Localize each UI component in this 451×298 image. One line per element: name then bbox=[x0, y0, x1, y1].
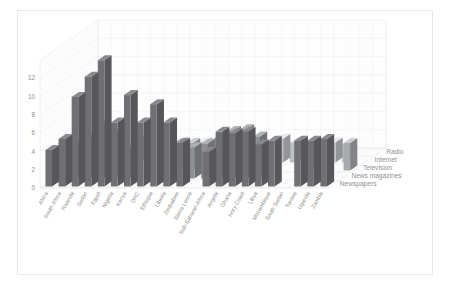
bar-front-face bbox=[320, 139, 327, 187]
chart-canvas: 024681012AfricaSouth AfricaRwandaSudanEg… bbox=[0, 0, 451, 298]
bar bbox=[85, 72, 99, 187]
bar-side-face bbox=[283, 134, 290, 163]
bar-side-face bbox=[65, 134, 72, 187]
bar-front-face bbox=[111, 122, 118, 186]
bar-side-face bbox=[275, 136, 282, 187]
bar bbox=[242, 127, 256, 187]
bar-front-face bbox=[176, 143, 183, 187]
y-axis-tick-label: 6 bbox=[31, 129, 35, 136]
bar bbox=[344, 138, 358, 170]
bar-side-face bbox=[195, 142, 202, 178]
series-axis-label: Radio bbox=[386, 148, 404, 155]
x-axis-category-label: Nigeria bbox=[101, 190, 115, 209]
bar bbox=[72, 92, 86, 187]
y-axis-tick-label: 2 bbox=[31, 166, 35, 173]
bar-side-face bbox=[170, 118, 177, 187]
bar-side-face bbox=[209, 147, 216, 187]
x-axis-category-label: Rwanda bbox=[60, 190, 75, 211]
bar bbox=[216, 127, 230, 187]
y-axis-tick-label: 12 bbox=[28, 74, 36, 81]
bar-front-face bbox=[203, 152, 210, 187]
bar bbox=[176, 138, 190, 187]
bar-front-face bbox=[229, 133, 236, 186]
bar bbox=[124, 90, 138, 186]
series-axis-label: News magazines bbox=[351, 172, 402, 180]
x-axis-category-label: Ghana bbox=[219, 190, 233, 208]
series-axis-label: Newspapers bbox=[340, 180, 377, 188]
bar-front-face bbox=[59, 139, 66, 187]
bar-front-face bbox=[45, 150, 52, 187]
bar-side-face bbox=[78, 92, 85, 187]
bar bbox=[320, 134, 334, 187]
bar-front-face bbox=[216, 132, 223, 187]
bar bbox=[98, 55, 112, 186]
x-axis-category-label: DRC bbox=[130, 191, 141, 204]
y-axis-tick-label: 8 bbox=[31, 111, 35, 118]
bar-side-face bbox=[183, 138, 190, 187]
bar-side-face bbox=[248, 127, 255, 187]
bar-side-face bbox=[131, 90, 138, 186]
x-axis-category-label: Kenya bbox=[115, 190, 128, 207]
bar-front-face bbox=[98, 60, 105, 186]
bar bbox=[307, 136, 321, 187]
bar bbox=[150, 99, 164, 186]
bar-side-face bbox=[91, 72, 98, 187]
x-axis-category-label: Zambia bbox=[310, 190, 325, 210]
bar bbox=[111, 118, 125, 187]
bar-front-face bbox=[344, 143, 351, 170]
bar-front-face bbox=[242, 132, 249, 187]
x-axis-category-label: Angola bbox=[206, 190, 220, 209]
bar-side-face bbox=[301, 136, 308, 187]
bar bbox=[268, 136, 282, 187]
x-axis-category-label: Sudan bbox=[75, 191, 88, 208]
bar-side-face bbox=[235, 128, 242, 186]
y-axis-tick-label: 0 bbox=[31, 184, 35, 191]
bar bbox=[45, 145, 59, 187]
series-axis-label: Internet bbox=[375, 156, 398, 163]
bar-front-face bbox=[137, 122, 144, 186]
bar-front-face bbox=[268, 141, 275, 187]
bar-side-face bbox=[52, 145, 59, 187]
bar bbox=[137, 118, 151, 187]
bar-side-face bbox=[117, 118, 124, 187]
bar bbox=[294, 136, 308, 187]
bar bbox=[229, 128, 243, 186]
x-axis-category-label: Africa bbox=[37, 190, 50, 206]
x-axis-category-label: Liberia bbox=[154, 190, 168, 208]
bar bbox=[255, 139, 269, 186]
bar-side-face bbox=[157, 99, 164, 186]
bar-side-face bbox=[350, 138, 357, 170]
bar bbox=[163, 118, 177, 187]
bar-side-face bbox=[222, 127, 229, 187]
bar-front-face bbox=[150, 104, 157, 186]
series-axis-label: Television bbox=[363, 164, 392, 171]
chart-screenshot: 024681012AfricaSouth AfricaRwandaSudanEg… bbox=[0, 0, 451, 298]
bar-side-face bbox=[104, 55, 111, 186]
bar-side-face bbox=[144, 118, 151, 187]
y-axis-tick-label: 10 bbox=[28, 93, 36, 100]
x-axis-category-label: Egypt bbox=[89, 190, 101, 206]
bar-front-face bbox=[72, 97, 79, 187]
x-axis-category-label: Ethiopia bbox=[139, 190, 154, 211]
y-axis-tick-label: 4 bbox=[31, 148, 35, 155]
bar-side-face bbox=[314, 136, 321, 187]
bar-front-face bbox=[85, 77, 92, 187]
bar-front-face bbox=[255, 144, 262, 186]
bar-front-face bbox=[307, 141, 314, 187]
bar bbox=[203, 147, 217, 187]
bar-front-face bbox=[294, 141, 301, 187]
bar-side-face bbox=[261, 139, 268, 186]
x-axis-category-label: Libya bbox=[247, 190, 259, 205]
bar-side-face bbox=[327, 134, 334, 187]
bar bbox=[59, 134, 73, 187]
bar-front-face bbox=[124, 95, 131, 186]
bar-front-face bbox=[163, 122, 170, 186]
